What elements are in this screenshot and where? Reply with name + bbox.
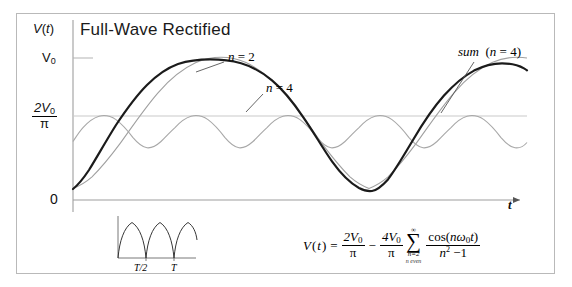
equation-term1: 2V0 π: [342, 230, 365, 261]
page-title: Full-Wave Rectified: [80, 21, 231, 38]
equation-minus: −: [369, 239, 376, 252]
n-2-label: n = 2: [228, 50, 255, 63]
x-axis-arrow: [513, 197, 520, 203]
y-tick-label-zero: 0: [50, 192, 58, 206]
curve-n2: [73, 57, 527, 188]
equation-fraction: cos(nω0t) n2 −1: [426, 230, 480, 261]
sum-label: sum (n = 4): [458, 45, 521, 58]
figure-container: Full-Wave Rectified V(t) V0 2V0 π 0 t n …: [0, 0, 572, 287]
y-axis-label: V(t): [33, 22, 54, 35]
y-tick-label-v0: V0: [42, 51, 56, 66]
leader-sum: [441, 62, 474, 113]
inset-tick-label-T: T: [171, 263, 177, 273]
equation-summation: ∞ ∑ n=2 n even: [406, 227, 422, 264]
leader-n2: [196, 62, 224, 72]
curve-n4: [73, 115, 527, 147]
equation-equals: =: [330, 239, 337, 252]
inset-rectified-wave: [118, 223, 197, 259]
x-axis-label: t: [508, 198, 512, 211]
y-tick-label-2v0-pi: 2V0 π: [32, 101, 57, 132]
curve-sum: [73, 59, 527, 191]
equation-term2: 4V0 π: [380, 230, 403, 261]
leader-n4: [246, 94, 263, 112]
n-4-label: n = 4: [266, 81, 293, 94]
fourier-equation: V(t) = 2V0 π − 4V0 π ∞ ∑ n=2 n even cos(…: [303, 227, 480, 264]
equation-lhs: V: [303, 239, 311, 252]
inset-tick-label-half-T: T/2: [134, 263, 147, 273]
